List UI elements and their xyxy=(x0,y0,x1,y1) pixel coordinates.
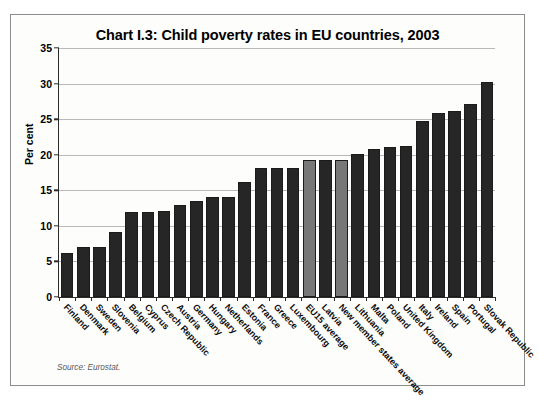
x-tick-mark xyxy=(172,297,173,301)
x-tick-mark xyxy=(285,297,286,301)
x-tick-mark xyxy=(317,297,318,301)
plot-area: 05101520253035 FinlandDenmarkSwedenSlove… xyxy=(58,48,495,298)
bar xyxy=(384,147,397,297)
bar xyxy=(61,253,74,297)
y-tick-label: 20 xyxy=(40,149,52,161)
x-tick-mark xyxy=(398,297,399,301)
bar xyxy=(255,168,268,297)
bar xyxy=(287,168,300,297)
bar xyxy=(109,232,122,297)
x-tick-mark xyxy=(334,297,335,301)
bar xyxy=(271,168,284,297)
x-tick-mark xyxy=(91,297,92,301)
x-tick-mark xyxy=(59,297,60,301)
bar xyxy=(464,104,477,297)
x-tick-mark xyxy=(350,297,351,301)
bar xyxy=(238,182,251,297)
x-tick-mark xyxy=(366,297,367,301)
x-tick-mark xyxy=(447,297,448,301)
source-note: Source: Eurostat. xyxy=(57,363,120,372)
bar xyxy=(190,201,203,297)
bar xyxy=(206,197,219,297)
bar xyxy=(368,149,381,297)
x-tick-mark xyxy=(495,297,496,301)
bar xyxy=(303,160,316,297)
bar xyxy=(448,111,461,297)
y-tick-label: 35 xyxy=(40,42,52,54)
bar xyxy=(93,247,106,298)
x-tick-mark xyxy=(188,297,189,301)
y-tick-label: 0 xyxy=(46,291,52,303)
bar xyxy=(481,82,494,297)
x-tick-mark xyxy=(237,297,238,301)
bar xyxy=(335,160,348,297)
y-tick-label: 10 xyxy=(40,220,52,232)
bar xyxy=(400,146,413,297)
x-tick-mark xyxy=(156,297,157,301)
x-tick-mark xyxy=(107,297,108,301)
bar xyxy=(319,160,332,297)
bar xyxy=(351,154,364,297)
bar xyxy=(174,205,187,297)
y-tick-label: 15 xyxy=(40,184,52,196)
y-tick-label: 25 xyxy=(40,113,52,125)
y-tick-label: 5 xyxy=(46,255,52,267)
bar xyxy=(77,247,90,297)
x-tick-mark xyxy=(75,297,76,301)
x-tick-mark xyxy=(140,297,141,301)
x-tick-mark xyxy=(269,297,270,301)
x-tick-mark xyxy=(479,297,480,301)
y-tick-label: 30 xyxy=(40,78,52,90)
bar xyxy=(222,197,235,297)
x-tick-mark xyxy=(430,297,431,301)
x-tick-mark xyxy=(124,297,125,301)
x-tick-mark xyxy=(382,297,383,301)
bar xyxy=(432,113,445,297)
x-tick-mark xyxy=(220,297,221,301)
x-tick-mark xyxy=(301,297,302,301)
x-tick-mark xyxy=(414,297,415,301)
bar xyxy=(142,212,155,297)
x-tick-mark xyxy=(204,297,205,301)
bar xyxy=(125,212,138,297)
chart-title: Chart I.3: Child poverty rates in EU cou… xyxy=(11,27,524,43)
bar xyxy=(416,121,429,297)
x-tick-mark xyxy=(253,297,254,301)
y-axis-label: Per cent xyxy=(23,124,35,165)
chart-figure: Chart I.3: Child poverty rates in EU cou… xyxy=(10,14,525,386)
bar xyxy=(158,211,171,297)
x-tick-mark xyxy=(463,297,464,301)
bar-series xyxy=(59,48,495,297)
